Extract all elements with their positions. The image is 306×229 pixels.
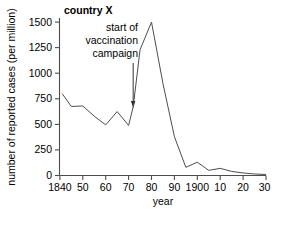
x-tick-label: 70 [123,181,135,193]
y-axis-tick-labels: 0 250 500 750 1000 1250 1500 [29,16,53,181]
y-tick-label: 1500 [29,16,53,28]
x-tick-label: 1900 [186,181,210,193]
y-tick-label: 750 [34,92,52,104]
annotation-line-2: vaccination [85,34,138,46]
chart-canvas: 0 250 500 750 1000 1250 1500 1840 50 60 … [0,0,306,229]
y-tick-label: 250 [34,143,52,155]
vaccination-annotation-arrow [131,63,135,108]
x-axis-ticks [60,176,266,181]
annotation-line-3: campaign [92,47,138,59]
x-axis-tick-labels: 1840 50 60 70 80 90 1900 10 20 30 [48,181,270,193]
chart-figure: 0 250 500 750 1000 1250 1500 1840 50 60 … [0,0,306,229]
annotation-line-1: start of [106,21,138,33]
y-axis-title: number of reported cases (per million) [5,8,17,185]
y-tick-label: 1000 [29,67,53,79]
x-tick-label: 90 [169,181,181,193]
y-tick-label: 500 [34,118,52,130]
y-tick-label: 0 [46,169,52,181]
x-tick-label: 80 [146,181,158,193]
x-tick-label: 20 [237,181,249,193]
y-axis-ticks [55,22,60,175]
chart-title: country X [64,4,112,16]
x-axis-title: year [153,195,174,207]
x-tick-label: 30 [259,181,271,193]
x-tick-label: 1840 [48,181,72,193]
x-tick-label: 60 [100,181,112,193]
x-tick-label: 50 [77,181,89,193]
vaccination-annotation-text: start of vaccination campaign [85,21,138,59]
y-tick-label: 1250 [29,41,53,53]
x-tick-label: 10 [214,181,226,193]
